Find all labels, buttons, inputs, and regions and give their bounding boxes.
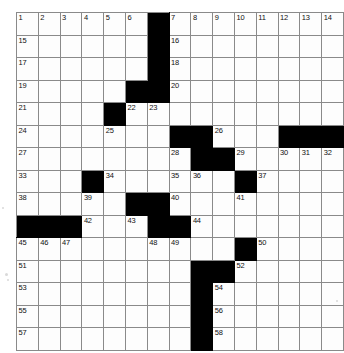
crossword-cell[interactable] xyxy=(169,260,191,283)
crossword-cell[interactable]: 43 xyxy=(125,215,147,238)
crossword-cell[interactable] xyxy=(82,35,104,58)
crossword-cell[interactable] xyxy=(60,58,82,81)
crossword-cell[interactable]: 29 xyxy=(234,148,256,171)
crossword-cell[interactable] xyxy=(300,58,322,81)
crossword-cell[interactable]: 15 xyxy=(17,35,39,58)
crossword-cell[interactable] xyxy=(104,215,126,238)
crossword-cell[interactable] xyxy=(38,125,60,148)
crossword-cell[interactable] xyxy=(104,148,126,171)
crossword-cell[interactable] xyxy=(38,193,60,216)
crossword-cell[interactable]: 28 xyxy=(169,148,191,171)
crossword-cell[interactable]: 37 xyxy=(256,170,278,193)
crossword-cell[interactable] xyxy=(125,260,147,283)
crossword-cell[interactable] xyxy=(104,283,126,306)
crossword-cell[interactable] xyxy=(278,193,300,216)
crossword-cell[interactable] xyxy=(60,193,82,216)
crossword-cell[interactable] xyxy=(322,328,344,351)
crossword-cell[interactable] xyxy=(234,328,256,351)
crossword-cell[interactable] xyxy=(38,148,60,171)
crossword-cell[interactable] xyxy=(278,260,300,283)
crossword-cell[interactable] xyxy=(191,58,213,81)
crossword-cell[interactable]: 14 xyxy=(322,13,344,36)
crossword-cell[interactable] xyxy=(82,260,104,283)
crossword-cell[interactable] xyxy=(278,215,300,238)
crossword-cell[interactable]: 10 xyxy=(234,13,256,36)
crossword-cell[interactable] xyxy=(256,193,278,216)
crossword-cell[interactable] xyxy=(278,305,300,328)
crossword-cell[interactable] xyxy=(191,103,213,126)
crossword-cell[interactable]: 40 xyxy=(169,193,191,216)
crossword-cell[interactable]: 9 xyxy=(213,13,235,36)
crossword-cell[interactable] xyxy=(300,283,322,306)
crossword-cell[interactable]: 7 xyxy=(169,13,191,36)
crossword-cell[interactable] xyxy=(104,58,126,81)
crossword-cell[interactable] xyxy=(300,170,322,193)
crossword-cell[interactable] xyxy=(125,238,147,261)
crossword-cell[interactable] xyxy=(38,35,60,58)
crossword-cell[interactable]: 52 xyxy=(234,260,256,283)
crossword-cell[interactable]: 36 xyxy=(191,170,213,193)
crossword-cell[interactable] xyxy=(191,238,213,261)
crossword-cell[interactable] xyxy=(191,80,213,103)
crossword-cell[interactable]: 4 xyxy=(82,13,104,36)
crossword-cell[interactable] xyxy=(213,103,235,126)
crossword-cell[interactable]: 58 xyxy=(213,328,235,351)
crossword-cell[interactable] xyxy=(104,80,126,103)
crossword-cell[interactable] xyxy=(125,148,147,171)
crossword-cell[interactable] xyxy=(322,103,344,126)
crossword-cell[interactable] xyxy=(256,215,278,238)
crossword-cell[interactable] xyxy=(125,283,147,306)
crossword-cell[interactable] xyxy=(38,58,60,81)
crossword-cell[interactable] xyxy=(256,103,278,126)
crossword-cell[interactable]: 1 xyxy=(17,13,39,36)
crossword-cell[interactable] xyxy=(300,35,322,58)
crossword-cell[interactable]: 51 xyxy=(17,260,39,283)
crossword-cell[interactable] xyxy=(60,103,82,126)
crossword-cell[interactable]: 53 xyxy=(17,283,39,306)
crossword-cell[interactable] xyxy=(322,58,344,81)
crossword-cell[interactable] xyxy=(322,283,344,306)
crossword-cell[interactable] xyxy=(300,215,322,238)
crossword-cell[interactable] xyxy=(38,170,60,193)
crossword-cell[interactable] xyxy=(213,35,235,58)
crossword-cell[interactable] xyxy=(60,328,82,351)
crossword-cell[interactable] xyxy=(278,170,300,193)
crossword-cell[interactable] xyxy=(256,148,278,171)
crossword-cell[interactable] xyxy=(147,283,169,306)
crossword-cell[interactable] xyxy=(278,58,300,81)
crossword-cell[interactable]: 11 xyxy=(256,13,278,36)
crossword-cell[interactable] xyxy=(256,80,278,103)
crossword-cell[interactable]: 41 xyxy=(234,193,256,216)
crossword-cell[interactable] xyxy=(213,80,235,103)
crossword-cell[interactable] xyxy=(300,103,322,126)
crossword-cell[interactable] xyxy=(169,283,191,306)
crossword-cell[interactable] xyxy=(278,238,300,261)
crossword-cell[interactable]: 46 xyxy=(38,238,60,261)
crossword-cell[interactable] xyxy=(234,35,256,58)
crossword-cell[interactable] xyxy=(322,170,344,193)
crossword-cell[interactable]: 23 xyxy=(147,103,169,126)
crossword-cell[interactable] xyxy=(147,328,169,351)
crossword-cell[interactable] xyxy=(213,215,235,238)
crossword-cell[interactable] xyxy=(300,80,322,103)
crossword-cell[interactable]: 16 xyxy=(169,35,191,58)
crossword-cell[interactable] xyxy=(82,238,104,261)
crossword-cell[interactable]: 25 xyxy=(104,125,126,148)
crossword-cell[interactable]: 32 xyxy=(322,148,344,171)
crossword-cell[interactable] xyxy=(38,260,60,283)
crossword-cell[interactable] xyxy=(191,35,213,58)
crossword-cell[interactable] xyxy=(82,58,104,81)
crossword-cell[interactable] xyxy=(60,170,82,193)
crossword-cell[interactable] xyxy=(278,328,300,351)
crossword-cell[interactable] xyxy=(278,283,300,306)
crossword-cell[interactable] xyxy=(300,328,322,351)
crossword-cell[interactable] xyxy=(38,305,60,328)
crossword-cell[interactable] xyxy=(38,283,60,306)
crossword-cell[interactable] xyxy=(278,80,300,103)
crossword-cell[interactable]: 17 xyxy=(17,58,39,81)
crossword-cell[interactable] xyxy=(104,238,126,261)
crossword-cell[interactable] xyxy=(60,283,82,306)
crossword-cell[interactable] xyxy=(322,305,344,328)
crossword-cell[interactable] xyxy=(125,305,147,328)
crossword-cell[interactable] xyxy=(147,305,169,328)
